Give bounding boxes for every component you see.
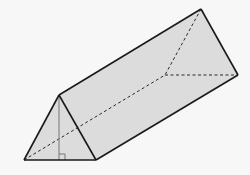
- prism-figure: [0, 0, 250, 175]
- prism-diagram: [0, 0, 250, 175]
